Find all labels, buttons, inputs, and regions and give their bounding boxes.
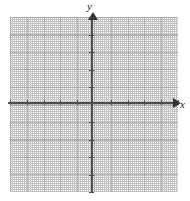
x-axis-tick — [178, 100, 179, 105]
y-axis-tick — [89, 157, 94, 158]
y-axis-tick — [89, 87, 94, 88]
x-axis-label: x — [180, 99, 185, 110]
y-axis-line — [91, 15, 93, 193]
x-axis-tick — [60, 100, 61, 105]
y-axis-label: y — [87, 1, 92, 12]
x-axis-tick — [128, 100, 129, 105]
y-axis-tick — [89, 35, 94, 36]
x-axis-tick — [144, 100, 145, 105]
y-axis-tick — [89, 122, 94, 123]
x-axis-tick — [44, 100, 45, 105]
y-axis-tick — [89, 175, 94, 176]
coordinate-plane-figure: x y — [0, 0, 190, 201]
x-axis-tick — [161, 100, 162, 105]
grid-background — [10, 17, 178, 192]
x-axis-tick — [10, 100, 11, 105]
x-axis-tick — [111, 100, 112, 105]
x-axis-tick — [27, 100, 28, 105]
y-axis-arrowhead-icon — [88, 12, 98, 20]
y-axis-tick — [89, 140, 94, 141]
y-axis-tick — [89, 52, 94, 53]
y-axis-tick — [89, 192, 94, 193]
y-axis-tick — [89, 70, 94, 71]
y-axis-tick — [89, 17, 94, 18]
x-axis-tick — [77, 100, 78, 105]
